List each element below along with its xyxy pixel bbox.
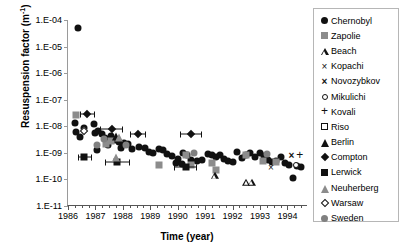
y-axis-tick: [64, 179, 68, 180]
data-point: [74, 24, 81, 31]
legend-item[interactable]: Warsaw: [318, 195, 395, 210]
data-point: [122, 141, 129, 148]
y-axis-tick-label: 1.E-06: [35, 68, 62, 78]
x-axis-tick: [233, 205, 234, 210]
data-point: [298, 163, 305, 170]
legend-item[interactable]: Mikulichi: [318, 89, 395, 104]
data-point: [71, 120, 78, 127]
legend-marker-icon: +: [318, 105, 331, 118]
legend-marker-icon: [318, 29, 331, 42]
legend-label: Berlin: [331, 137, 354, 147]
data-point: [182, 163, 189, 170]
legend-marker-icon: [318, 44, 331, 57]
y-axis-tick: [64, 73, 68, 74]
x-axis-minor-tick: [281, 205, 282, 208]
data-point: +: [296, 151, 303, 158]
data-point: ×: [268, 163, 274, 170]
legend-item[interactable]: +Kovali: [318, 104, 395, 119]
legend-marker-icon: [318, 120, 331, 133]
legend-label: Chernobyl: [331, 16, 372, 26]
data-point: [81, 153, 88, 160]
legend-marker-icon: [318, 196, 331, 209]
x-axis-minor-tick: [130, 205, 131, 208]
x-axis-minor-tick: [157, 205, 158, 208]
x-axis-minor-tick: [191, 205, 192, 208]
x-axis-tick-label: 1992: [223, 211, 243, 221]
legend-item[interactable]: ×Novozybkov: [318, 74, 395, 89]
legend-label: Novozybkov: [331, 76, 380, 86]
data-point: [289, 175, 296, 182]
data-point: [100, 136, 107, 143]
x-axis-minor-tick: [89, 205, 90, 208]
legend-marker-icon: [318, 14, 331, 27]
legend-label: Beach: [331, 46, 357, 56]
x-axis-tick-label: 1990: [168, 211, 188, 221]
legend: ChernobylZapolieBeach×Kopachi×Novozybkov…: [313, 8, 399, 222]
data-point: [229, 159, 236, 166]
x-axis-tick: [123, 205, 124, 210]
legend-item[interactable]: Beach: [318, 43, 395, 58]
x-axis-tick: [287, 205, 288, 210]
x-axis-tick-label: 1993: [250, 211, 270, 221]
legend-label: Zapolie: [331, 31, 361, 41]
data-point: [115, 134, 123, 142]
x-axis-minor-tick: [274, 205, 275, 208]
legend-item[interactable]: Lerwick: [318, 165, 395, 180]
plot-area: 1.E-041.E-051.E-061.E-071.E-081.E-091.E-…: [67, 20, 307, 206]
x-axis-minor-tick: [226, 205, 227, 208]
data-point: [263, 151, 270, 158]
x-axis-minor-tick: [219, 205, 220, 208]
x-axis-minor-tick: [171, 205, 172, 208]
x-axis-tick-label: 1987: [85, 211, 105, 221]
x-axis-minor-tick: [185, 205, 186, 208]
x-axis-minor-tick: [116, 205, 117, 208]
y-axis-tick-label: 1.E-05: [35, 42, 62, 52]
data-point: [199, 157, 206, 164]
x-axis-minor-tick: [102, 205, 103, 208]
legend-marker-icon: ×: [318, 60, 331, 73]
x-axis-minor-tick: [267, 205, 268, 208]
legend-item[interactable]: Neuherberg: [318, 180, 395, 195]
legend-label: Kovali: [331, 107, 356, 117]
y-axis-tick: [64, 153, 68, 154]
x-axis-tick-label: 1986: [58, 211, 78, 221]
legend-marker-icon: [318, 181, 331, 194]
x-axis-minor-tick: [143, 205, 144, 208]
legend-item[interactable]: Chernobyl: [318, 13, 395, 28]
x-axis-tick: [260, 205, 261, 210]
y-axis-tick: [64, 47, 68, 48]
y-axis-tick: [64, 20, 68, 21]
x-axis-tick: [68, 205, 69, 210]
y-axis-tick-label: 1.E-11: [36, 201, 62, 211]
x-axis-minor-tick: [253, 205, 254, 208]
x-axis-title: Time (year): [67, 231, 307, 242]
legend-item[interactable]: Compton: [318, 150, 395, 165]
data-point: [91, 121, 98, 128]
legend-item[interactable]: Zapolie: [318, 28, 395, 43]
x-axis-tick: [178, 205, 179, 210]
legend-label: Warsaw: [331, 198, 363, 208]
x-axis-tick: [95, 205, 96, 210]
data-point: [112, 153, 120, 161]
legend-item[interactable]: Sweden: [318, 210, 395, 225]
legend-label: Sweden: [331, 213, 364, 223]
x-axis-tick-label: 1994: [277, 211, 297, 221]
x-axis-minor-tick: [294, 205, 295, 208]
x-axis-minor-tick: [239, 205, 240, 208]
data-point: [211, 172, 219, 179]
y-axis-title-tail: ): [20, 4, 31, 7]
y-axis-title: Resuspension factor (m-1): [19, 0, 31, 151]
data-point: [182, 151, 189, 158]
y-axis-tick: [64, 126, 68, 127]
x-axis-minor-tick: [75, 205, 76, 208]
legend-marker-icon: [318, 212, 331, 225]
legend-label: Kopachi: [331, 61, 364, 71]
legend-item[interactable]: Berlin: [318, 135, 395, 150]
legend-item[interactable]: Riso: [318, 119, 395, 134]
legend-marker-icon: ×: [318, 75, 331, 88]
legend-item[interactable]: ×Kopachi: [318, 59, 395, 74]
y-axis-tick-label: 1.E-08: [35, 121, 62, 131]
x-axis-tick: [150, 205, 151, 210]
data-point: [191, 149, 198, 156]
legend-marker-icon: [318, 136, 331, 149]
